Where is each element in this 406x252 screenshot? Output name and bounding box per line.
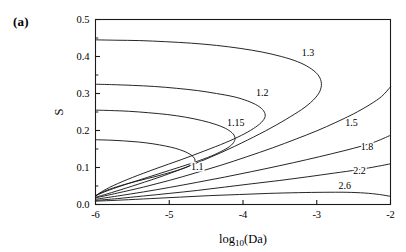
- y-tick-label: 0.0: [76, 199, 89, 210]
- contour-label-1.15: 1.15: [227, 117, 245, 128]
- contour-line-1.3: [96, 40, 322, 197]
- contour-label-1.3: 1.3: [302, 47, 315, 58]
- contour-labels: 1.11.11.151.151.21.21.31.31.51.51.81.82.…: [191, 47, 373, 191]
- figure-root: (a) -6-5-4-3-20.00.10.20.30.40.5 1.11.11…: [0, 0, 406, 252]
- x-axis-title: log10(Da): [219, 232, 267, 248]
- contour-label-1.1: 1.1: [191, 161, 204, 172]
- x-tick-label: -3: [312, 209, 321, 220]
- contour-label-1.5: 1.5: [345, 117, 358, 128]
- y-tick-label: 0.4: [76, 51, 90, 62]
- contour-plot: -6-5-4-3-20.00.10.20.30.40.5 1.11.11.151…: [0, 0, 406, 252]
- y-tick-label: 0.1: [76, 162, 89, 173]
- contour-label-1.2: 1.2: [256, 87, 269, 98]
- contour-label-1.8: 1.8: [361, 141, 374, 152]
- contour-label-2.6: 2.6: [339, 180, 352, 191]
- x-tick-label: -4: [239, 209, 248, 220]
- y-tick-label: 0.3: [76, 88, 89, 99]
- x-tick-label: -5: [165, 209, 174, 220]
- x-axis-title-tail: (Da): [244, 232, 267, 246]
- contour-line-1.15: [96, 110, 236, 196]
- x-tick-label: -6: [91, 209, 100, 220]
- x-tick-label: -2: [386, 209, 395, 220]
- contour-label-2.2: 2.2: [353, 165, 366, 176]
- y-tick-label: 0.2: [76, 125, 89, 136]
- y-tick-label: 0.5: [76, 14, 89, 25]
- y-axis-title: S: [52, 108, 66, 115]
- x-axis-title-base: log: [219, 232, 236, 246]
- contour-line-1.2: [96, 84, 266, 196]
